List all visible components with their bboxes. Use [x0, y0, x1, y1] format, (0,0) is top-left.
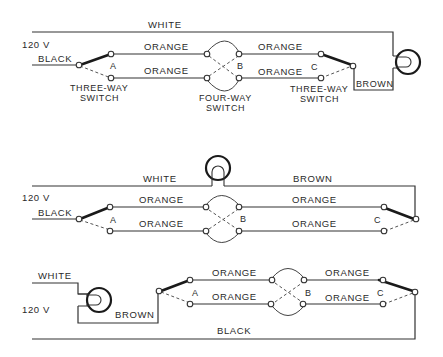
svg-text:ORANGE: ORANGE — [212, 267, 257, 278]
svg-text:THREE-WAY: THREE-WAY — [290, 84, 348, 94]
svg-text:ORANGE: ORANGE — [139, 218, 184, 229]
white-wire — [32, 32, 393, 56]
lamp-icon — [78, 288, 111, 312]
three-way-switch-a: A — [76, 51, 116, 81]
svg-text:ORANGE: ORANGE — [212, 291, 257, 302]
svg-text:THREE-WAY: THREE-WAY — [70, 83, 128, 93]
svg-text:FOUR-WAY: FOUR-WAY — [199, 93, 252, 103]
lamp-icon — [206, 156, 230, 186]
svg-text:C: C — [377, 288, 384, 298]
black-label: BLACK — [38, 53, 72, 64]
svg-text:ORANGE: ORANGE — [258, 41, 303, 52]
svg-text:ORANGE: ORANGE — [292, 194, 337, 205]
svg-text:BLACK: BLACK — [38, 207, 72, 218]
svg-text:ORANGE: ORANGE — [258, 66, 303, 77]
svg-text:120 V: 120 V — [22, 192, 50, 203]
white-label: WHITE — [148, 19, 182, 30]
three-way-switch-c: C — [374, 204, 419, 234]
svg-text:ORANGE: ORANGE — [325, 292, 370, 303]
svg-text:A: A — [192, 288, 199, 298]
four-way-switch-b: B — [203, 196, 246, 243]
terminal-common — [76, 62, 82, 68]
svg-text:B: B — [237, 61, 244, 71]
terminal-traveler-1 — [108, 51, 114, 57]
voltage-label: 120 V — [22, 39, 50, 50]
white-wire — [32, 283, 92, 294]
svg-text:120 V: 120 V — [22, 304, 50, 315]
svg-text:WHITE: WHITE — [38, 270, 72, 281]
svg-text:ORANGE: ORANGE — [144, 65, 189, 76]
svg-text:A: A — [110, 61, 117, 71]
three-way-switch-c: C — [377, 277, 418, 307]
svg-text:ORANGE: ORANGE — [139, 194, 184, 205]
diagram-middle: WHITE BROWN 120 V BLACK A ORANGE ORANGE — [22, 156, 419, 243]
svg-text:C: C — [311, 62, 318, 72]
lamp-icon — [393, 50, 420, 74]
svg-text:B: B — [240, 214, 247, 224]
svg-text:BLACK: BLACK — [217, 325, 251, 336]
svg-text:BROWN: BROWN — [293, 173, 332, 184]
svg-text:A: A — [110, 215, 117, 225]
diagram-top: WHITE 120 V BLACK A THREE-WAY SWITCH ORA… — [22, 19, 420, 113]
svg-text:B: B — [305, 288, 312, 298]
svg-text:C: C — [374, 215, 381, 225]
svg-text:ORANGE: ORANGE — [292, 218, 337, 229]
svg-text:SWITCH: SWITCH — [80, 93, 119, 103]
svg-text:BROWN: BROWN — [115, 309, 154, 320]
svg-text:ORANGE: ORANGE — [144, 41, 189, 52]
svg-text:WHITE: WHITE — [143, 173, 177, 184]
svg-text:SWITCH: SWITCH — [300, 94, 339, 104]
diagram-bottom: WHITE 120 V BROWN A ORANGE ORANGE — [22, 267, 418, 339]
svg-text:BROWN: BROWN — [356, 79, 394, 89]
three-way-switch-a: A — [156, 277, 198, 307]
three-way-switch-a: A — [76, 204, 116, 234]
four-way-switch-b: B — [268, 269, 311, 316]
wiring-diagram: WHITE 120 V BLACK A THREE-WAY SWITCH ORA… — [0, 0, 443, 357]
four-way-switch-b: B — [204, 41, 243, 91]
svg-text:ORANGE: ORANGE — [325, 267, 370, 278]
svg-text:SWITCH: SWITCH — [206, 103, 245, 113]
three-way-switch-c: C — [311, 51, 356, 81]
terminal-traveler-2 — [108, 75, 114, 81]
